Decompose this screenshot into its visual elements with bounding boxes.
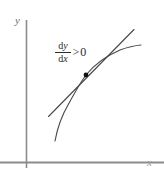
derivative-fraction: dy dx (55, 41, 71, 64)
derivative-annotation: dy dx > 0 (55, 41, 86, 64)
greater-than-symbol: > (73, 46, 80, 59)
tangency-point-marker (84, 73, 89, 78)
plot-canvas (0, 0, 164, 170)
fraction-numerator: dy (57, 41, 68, 52)
denominator-variable: x (63, 53, 67, 64)
x-axis-label: x (147, 157, 152, 168)
derivative-figure: y x dy dx > 0 (0, 0, 164, 170)
comparison-value: 0 (80, 46, 86, 59)
numerator-variable: y (63, 40, 67, 51)
fraction-denominator: dx (57, 53, 68, 64)
y-axis-label: y (15, 15, 20, 26)
